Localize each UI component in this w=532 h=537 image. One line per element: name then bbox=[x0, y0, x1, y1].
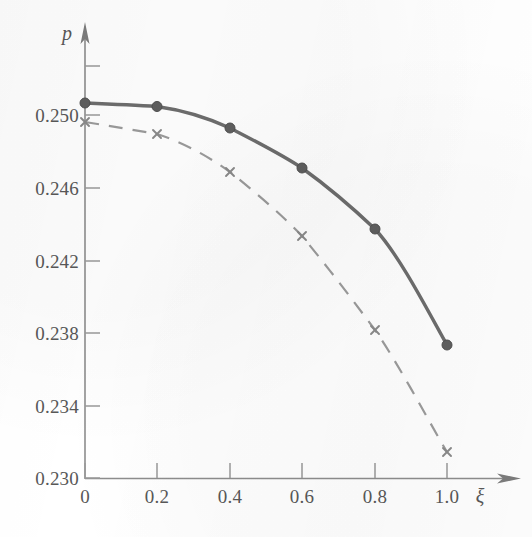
dot-marker-5 bbox=[442, 340, 452, 350]
y-tick-marks bbox=[85, 66, 100, 478]
solid-curve-path bbox=[85, 103, 447, 345]
x-tick-marks bbox=[85, 463, 447, 478]
x-tick-label-3: 0.6 bbox=[290, 486, 314, 507]
y-tick-labels: 0.250 0.246 0.242 0.238 0.234 0.230 bbox=[35, 105, 79, 489]
y-tick-label-2: 0.242 bbox=[35, 251, 79, 272]
x-marker-4 bbox=[371, 326, 379, 334]
dot-marker-1 bbox=[152, 102, 162, 112]
x-tick-label-2: 0.4 bbox=[218, 486, 243, 507]
y-tick-label-1: 0.246 bbox=[35, 178, 79, 199]
dot-marker-2 bbox=[225, 123, 235, 133]
y-tick-label-4: 0.234 bbox=[35, 396, 79, 417]
dot-marker-3 bbox=[297, 163, 307, 173]
x-marker-3 bbox=[298, 232, 306, 240]
dot-marker-4 bbox=[370, 224, 380, 234]
x-tick-label-4: 0.8 bbox=[363, 486, 387, 507]
chart-svg: 0.250 0.246 0.242 0.238 0.234 0.230 0 0.… bbox=[0, 0, 532, 537]
x-axis-label: ξ bbox=[476, 485, 485, 507]
chart-figure: 0.250 0.246 0.242 0.238 0.234 0.230 0 0.… bbox=[0, 0, 532, 537]
y-tick-label-0: 0.250 bbox=[35, 105, 79, 126]
dashed-curve-path bbox=[85, 122, 447, 452]
x-tick-label-1: 0.2 bbox=[145, 486, 169, 507]
dot-marker-0 bbox=[80, 98, 90, 108]
axes-group bbox=[81, 22, 522, 484]
x-tick-labels: 0 0.2 0.4 0.6 0.8 1.0 bbox=[80, 486, 459, 507]
x-marker-5 bbox=[443, 448, 451, 456]
y-axis-label: p bbox=[60, 22, 72, 45]
y-tick-label-5: 0.230 bbox=[35, 468, 79, 489]
solid-series-markers bbox=[80, 98, 452, 350]
x-tick-label-0: 0 bbox=[80, 486, 90, 507]
y-tick-label-3: 0.238 bbox=[35, 323, 79, 344]
x-tick-label-5: 1.0 bbox=[435, 486, 459, 507]
dashed-series-markers bbox=[81, 118, 451, 456]
x-marker-2 bbox=[226, 168, 234, 176]
